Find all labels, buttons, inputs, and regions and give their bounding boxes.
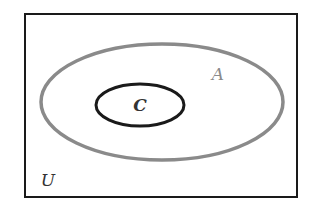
set-a-label: A bbox=[210, 64, 224, 84]
universal-set-boundary bbox=[25, 14, 297, 197]
universal-set-label: U bbox=[41, 170, 56, 190]
set-c-label: C bbox=[133, 95, 147, 115]
venn-diagram: A C U bbox=[0, 0, 313, 220]
set-a-ellipse bbox=[41, 44, 283, 160]
